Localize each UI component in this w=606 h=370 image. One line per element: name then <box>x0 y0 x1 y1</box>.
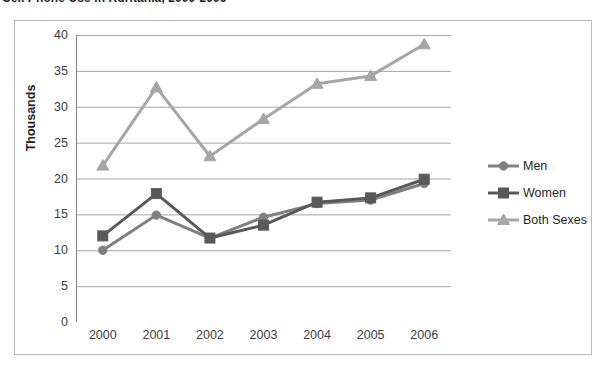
data-point-marker-square <box>366 193 376 203</box>
y-axis-title-label: Thousands <box>24 85 38 152</box>
x-tick-label: 2003 <box>234 328 294 342</box>
series-both-sexes <box>97 38 430 170</box>
chart-plot-svg <box>76 35 451 322</box>
legend-item-men[interactable]: Men <box>487 152 587 179</box>
data-point-marker-square <box>151 189 161 199</box>
data-point-marker-triangle <box>418 38 430 49</box>
x-tick-label: 2002 <box>180 328 240 342</box>
legend-swatch-icon <box>487 186 520 200</box>
plot-area <box>76 35 451 322</box>
legend-label: Both Sexes <box>523 213 587 227</box>
data-point-marker-square <box>98 231 108 241</box>
data-point-marker-square <box>205 233 215 243</box>
legend-label: Men <box>523 159 547 173</box>
x-tick-label: 2004 <box>287 328 347 342</box>
y-tick-label: 35 <box>42 64 68 78</box>
series-women <box>98 174 429 243</box>
x-tick-label: 2000 <box>73 328 133 342</box>
x-tick-label: 2005 <box>341 328 401 342</box>
y-tick-label: 10 <box>42 243 68 257</box>
legend-swatch-icon <box>487 213 520 227</box>
data-point-marker-triangle <box>150 81 162 92</box>
legend-label: Women <box>523 186 566 200</box>
chart-legend: MenWomenBoth Sexes <box>487 152 587 233</box>
series-men <box>99 179 429 254</box>
data-point-marker-circle <box>99 246 107 254</box>
data-point-marker-square <box>419 174 429 184</box>
x-tick-label: 2001 <box>126 328 186 342</box>
legend-item-women[interactable]: Women <box>487 179 587 206</box>
y-tick-label: 20 <box>42 172 68 186</box>
gridlines <box>76 36 451 323</box>
y-axis-title: Thousands <box>22 58 40 178</box>
y-tick-label: 30 <box>42 100 68 114</box>
legend-item-both-sexes[interactable]: Both Sexes <box>487 206 587 233</box>
x-axis-tick-labels: 2000200120022003200420052006 <box>76 328 451 348</box>
x-tick-label: 2006 <box>394 328 454 342</box>
legend-swatch-icon <box>487 159 520 173</box>
y-tick-label: 5 <box>42 279 68 293</box>
data-point-marker-square <box>312 197 322 207</box>
y-tick-label: 0 <box>42 315 68 329</box>
y-tick-label: 15 <box>42 207 68 221</box>
y-tick-label: 25 <box>42 136 68 150</box>
data-point-marker-circle <box>499 161 507 169</box>
y-tick-label: 40 <box>42 28 68 42</box>
series-line <box>103 44 424 165</box>
chart-title-strip: Cell Phone Use in Ruritania, 2000-2006 <box>0 0 606 8</box>
data-point-marker-square <box>499 188 509 198</box>
y-axis-tick-labels: 0510152025303540 <box>42 0 68 370</box>
data-point-marker-circle <box>152 211 160 219</box>
page-title: Cell Phone Use in Ruritania, 2000-2006 <box>2 0 227 5</box>
data-point-marker-square <box>259 220 269 230</box>
series-layer <box>97 38 430 254</box>
